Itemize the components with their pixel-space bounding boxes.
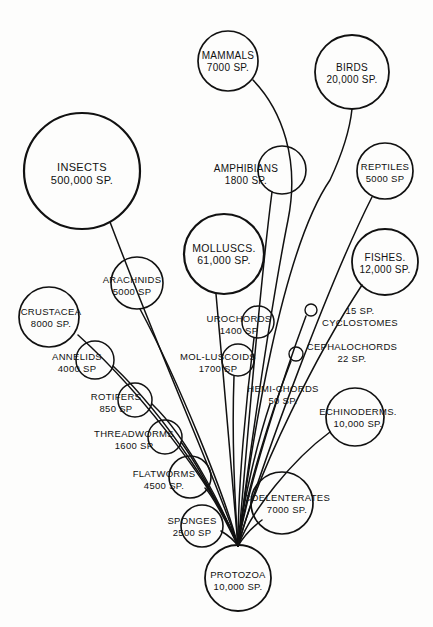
label-line1-protozoa: PROTOZOA	[210, 569, 266, 580]
label-line1-crustacea: CRUSTACEA	[21, 306, 82, 317]
label-sponges: SPONGES2500 SP	[167, 515, 216, 537]
species-diagram: INSECTS500,000 SP.MAMMALS7000 SP.BIRDS20…	[0, 0, 433, 627]
label-line2-reptiles: 5000 SP	[366, 172, 405, 183]
label-mammals: MAMMALS7000 SP.	[202, 50, 255, 73]
node-urochords[interactable]: UROCHORDS1400 SP	[207, 306, 274, 338]
node-amphibians[interactable]: AMPHIBIANS1800 SP.	[214, 146, 306, 194]
label-line2-hemichords: 50 SP.	[268, 394, 297, 405]
label-cyclostomes: 15 SP.CYCLOSTOMES	[322, 305, 398, 327]
label-line2-protozoa: 10,000 SP.	[214, 580, 263, 591]
label-line2-molluscoids: 1700 SP	[199, 362, 238, 373]
node-fishes[interactable]: FISHES.12,000 SP.	[352, 229, 418, 295]
label-line1-insects: INSECTS	[57, 161, 107, 173]
node-crustacea[interactable]: CRUSTACEA8000 SP.	[19, 287, 82, 347]
label-line2-coelenterates: 7000 SP.	[267, 503, 307, 514]
label-line2-fishes: 12,000 SP.	[359, 264, 410, 275]
label-line1-echinoderms: ECHINODERMS.	[319, 406, 397, 417]
node-sponges[interactable]: SPONGES2500 SP	[167, 505, 223, 547]
tree-canvas: INSECTS500,000 SP.MAMMALS7000 SP.BIRDS20…	[0, 0, 433, 627]
label-line1-cephalochords: CEPHALOCHORDS	[307, 341, 397, 352]
label-line1-annelids: ANNELIDS	[52, 351, 102, 362]
label-line2-flatworms: 4500 SP.	[144, 479, 184, 490]
label-fishes: FISHES.12,000 SP.	[359, 252, 410, 275]
label-line1-hemichords: HEMI-CHORDS	[247, 383, 318, 394]
circle-cyclostomes[interactable]	[305, 304, 317, 316]
label-line2-annelids: 4000 SP	[58, 362, 97, 373]
branch-molluscoids	[233, 376, 238, 546]
label-line1-reptiles: REPTILES	[361, 161, 409, 172]
node-annelids[interactable]: ANNELIDS4000 SP	[52, 341, 114, 379]
circle-cephalochords[interactable]	[289, 347, 303, 361]
label-line1-molluscs: MOLLUSCS.	[192, 242, 255, 254]
label-annelids: ANNELIDS4000 SP	[52, 351, 102, 373]
label-line1-rotifers: ROTIFERS	[91, 391, 141, 402]
node-echinoderms[interactable]: ECHINODERMS.10,000 SP.	[319, 388, 397, 446]
node-flatworms[interactable]: FLATWORMS4500 SP.	[133, 456, 211, 498]
label-cephalochords: CEPHALOCHORDS22 SP.	[307, 341, 397, 363]
label-line2-molluscs: 61,000 SP.	[197, 254, 251, 266]
label-line1-sponges: SPONGES	[167, 515, 216, 526]
label-line1-arachnids: ARACHNIDS	[103, 274, 162, 285]
node-molluscoids[interactable]: MOL-LUSCOIDS1700 SP	[180, 344, 256, 376]
label-line1-cyclostomes: 15 SP.	[345, 305, 374, 316]
node-threadworms[interactable]: THREADWORMS1600 SP	[94, 420, 182, 454]
label-line2-cyclostomes: CYCLOSTOMES	[322, 316, 398, 327]
node-protozoa[interactable]: PROTOZOA10,000 SP.	[205, 545, 271, 611]
nodes-layer: INSECTS500,000 SP.MAMMALS7000 SP.BIRDS20…	[19, 31, 418, 611]
label-line1-urochords: UROCHORDS	[207, 313, 272, 324]
label-line2-urochords: 1400 SP	[220, 324, 259, 335]
label-protozoa: PROTOZOA10,000 SP.	[210, 569, 266, 591]
label-line2-amphibians: 1800 SP.	[225, 175, 267, 186]
label-line1-threadworms: THREADWORMS	[94, 428, 174, 439]
label-molluscs: MOLLUSCS.61,000 SP.	[192, 242, 255, 267]
label-line1-amphibians: AMPHIBIANS	[214, 163, 279, 174]
label-line2-arachnids: 5000 SP	[113, 285, 152, 296]
label-line1-molluscoids: MOL-LUSCOIDS	[180, 351, 256, 362]
node-reptiles[interactable]: REPTILES5000 SP	[357, 143, 413, 199]
label-line2-birds: 20,000 SP.	[326, 74, 377, 85]
label-line2-sponges: 2500 SP	[173, 526, 212, 537]
node-cyclostomes[interactable]: 15 SP.CYCLOSTOMES	[305, 304, 398, 327]
node-rotifers[interactable]: ROTIFERS850 SP	[91, 383, 152, 417]
label-line1-fishes: FISHES.	[365, 252, 406, 263]
label-line2-mammals: 7000 SP.	[207, 62, 249, 73]
label-line2-threadworms: 1600 SP	[115, 439, 154, 450]
label-line1-mammals: MAMMALS	[202, 50, 255, 61]
node-arachnids[interactable]: ARACHNIDS5000 SP	[103, 257, 163, 309]
label-line2-rotifers: 850 SP	[100, 402, 133, 413]
label-line2-echinoderms: 10,000 SP.	[334, 417, 383, 428]
node-molluscs[interactable]: MOLLUSCS.61,000 SP.	[184, 214, 264, 294]
label-line1-birds: BIRDS	[336, 62, 368, 73]
label-insects: INSECTS500,000 SP.	[51, 161, 113, 186]
label-line2-cephalochords: 22 SP.	[337, 352, 366, 363]
node-birds[interactable]: BIRDS20,000 SP.	[315, 35, 389, 109]
label-line2-insects: 500,000 SP.	[51, 174, 113, 186]
label-line2-crustacea: 8000 SP.	[31, 317, 71, 328]
label-reptiles: REPTILES5000 SP	[361, 161, 409, 183]
node-mammals[interactable]: MAMMALS7000 SP.	[198, 31, 258, 91]
label-line1-coelenterates: COELENTERATES	[244, 492, 330, 503]
node-insects[interactable]: INSECTS500,000 SP.	[24, 113, 140, 229]
label-line1-flatworms: FLATWORMS	[133, 468, 196, 479]
